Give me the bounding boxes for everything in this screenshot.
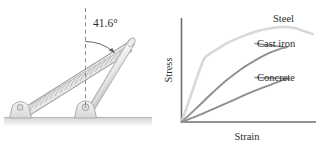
angle-label: 41.6° [93, 17, 118, 29]
mechanism-diagram: 41.6° [0, 0, 161, 151]
curve-concrete [182, 79, 290, 122]
curve-label-cast-iron: Cast iron [257, 38, 296, 49]
figure-root: 41.6° Steel Cast iron Concrete Stress St… [0, 0, 322, 151]
pin-support-left [10, 102, 32, 119]
x-axis-label: Strain [234, 131, 260, 142]
angle-arc [86, 42, 115, 54]
pin-left [18, 105, 23, 110]
curve-label-steel: Steel [273, 13, 294, 24]
stress-strain-chart: Steel Cast iron Concrete Stress Strain [161, 0, 322, 151]
ground [4, 118, 152, 127]
curve-label-concrete: Concrete [257, 72, 295, 83]
y-axis-label: Stress [163, 57, 174, 82]
